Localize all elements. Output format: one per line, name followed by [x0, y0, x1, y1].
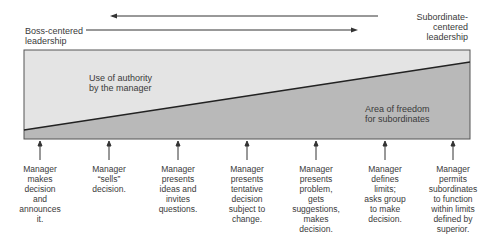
behavior-line: it.: [7, 214, 73, 224]
behavior-line: and: [7, 194, 73, 204]
authority-label-line1: Use of authority: [89, 73, 152, 83]
behavior-line: asks group: [352, 194, 418, 204]
behavior-line: makes: [283, 214, 349, 224]
right-arrowhead-icon: [351, 28, 358, 33]
behavior-line: superior.: [418, 224, 488, 234]
behavior-line: subject to: [214, 204, 280, 214]
behavior-line: decision.: [76, 184, 142, 194]
left-arrowhead-icon: [110, 14, 117, 19]
behavior-line: presents: [283, 174, 349, 184]
behavior-line: Manager: [76, 164, 142, 174]
freedom-label-line1: Area of freedom: [365, 104, 430, 114]
behavior-line: decision: [214, 194, 280, 204]
behavior-3: Managerpresentsideas andinvitesquestions…: [145, 164, 211, 214]
behavior-line: Manager: [283, 164, 349, 174]
behavior-line: decision: [7, 184, 73, 194]
behavior-line: Manager: [418, 164, 488, 174]
behavior-7: Managerpermitssubordinatesto functionwit…: [418, 164, 488, 234]
behavior-line: defined by: [418, 214, 488, 224]
behavior-arrows: [38, 141, 455, 160]
behavior-line: suggestions,: [283, 204, 349, 214]
behavior-line: to make: [352, 204, 418, 214]
behavior-line: to function: [418, 194, 488, 204]
boss-centered-line2: leadership: [25, 36, 83, 46]
behavior-line: permits: [418, 174, 488, 184]
subordinate-centered-label: Subordinate-centered leadership: [382, 12, 468, 42]
behavior-line: presents: [145, 174, 211, 184]
behavior-line: defines: [352, 174, 418, 184]
authority-label: Use of authority by the manager: [89, 73, 152, 93]
boss-centered-label: Boss-centered leadership: [25, 26, 83, 46]
behavior-1: Managermakesdecisionandannouncesit.: [7, 164, 73, 224]
subordinate-centered-line2: leadership: [382, 32, 468, 42]
behavior-line: Manager: [145, 164, 211, 174]
behavior-line: limits;: [352, 184, 418, 194]
freedom-label-line2: for subordinates: [365, 114, 430, 124]
behavior-line: change.: [214, 214, 280, 224]
behavior-line: problem,: [283, 184, 349, 194]
freedom-label: Area of freedom for subordinates: [365, 104, 430, 124]
behavior-line: invites: [145, 194, 211, 204]
behavior-5: Managerpresentsproblem,getssuggestions,m…: [283, 164, 349, 234]
behavior-2: Manager“sells”decision.: [76, 164, 142, 194]
behavior-line: “sells”: [76, 174, 142, 184]
behavior-line: presents: [214, 174, 280, 184]
behavior-line: tentative: [214, 184, 280, 194]
behavior-line: makes: [7, 174, 73, 184]
authority-label-line2: by the manager: [89, 83, 152, 93]
behavior-line: announces: [7, 204, 73, 214]
behavior-line: Manager: [214, 164, 280, 174]
behavior-line: Manager: [352, 164, 418, 174]
subordinate-centered-line1: Subordinate-centered: [382, 12, 468, 32]
boss-centered-line1: Boss-centered: [25, 26, 83, 36]
behavior-line: decision.: [352, 214, 418, 224]
behavior-line: Manager: [7, 164, 73, 174]
behavior-line: subordinates: [418, 184, 488, 194]
behavior-line: decision.: [283, 224, 349, 234]
behavior-line: questions.: [145, 204, 211, 214]
behavior-line: gets: [283, 194, 349, 204]
behavior-line: ideas and: [145, 184, 211, 194]
behavior-6: Managerdefineslimits;asks groupto makede…: [352, 164, 418, 224]
behavior-4: Managerpresentstentativedecisionsubject …: [214, 164, 280, 224]
behavior-line: within limits: [418, 204, 488, 214]
